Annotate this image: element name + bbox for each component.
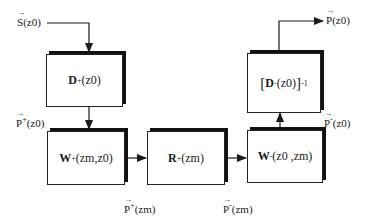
p-plus-zm-symbol: P <box>124 204 130 215</box>
source-symbol: S <box>17 17 23 28</box>
p-plus-zm-arg: (zm) <box>135 203 156 215</box>
w-plus-op: W <box>59 151 71 166</box>
box-w-minus: W-(z0 ,zm) <box>247 130 323 183</box>
r-plus-op: R <box>168 151 177 166</box>
p-minus-z0-symbol: P <box>324 118 330 129</box>
output-arg: (z0) <box>332 14 350 26</box>
edge-dminus-to-output <box>279 21 323 52</box>
w-plus-arg: (zm,z0) <box>76 151 113 166</box>
d-minus-op: D <box>265 76 274 91</box>
p-plus-z0-arg: (z0) <box>27 117 45 129</box>
source-label: S(z0) <box>17 17 41 28</box>
box-d-minus-inverse: [D-(z0)]-1 <box>247 53 321 113</box>
output-symbol: P <box>326 15 332 26</box>
d-plus-arg: (z0) <box>81 73 100 88</box>
signal-p-plus-zm: P+(zm) <box>124 202 155 215</box>
box-r-plus: R+(zm) <box>147 131 225 185</box>
p-minus-zm-arg: (zm) <box>232 203 253 215</box>
output-label: P(z0) <box>326 15 350 26</box>
box-w-plus: W+(zm,z0) <box>47 131 125 185</box>
edge-source-to-dplus <box>47 23 89 52</box>
source-arg: (z0) <box>23 16 41 28</box>
signal-p-plus-z0: P+(z0) <box>16 116 44 129</box>
r-plus-arg: (zm) <box>181 151 204 166</box>
signal-p-minus-z0: P-(z0) <box>324 116 351 129</box>
w-minus-arg: (z0 ,zm) <box>272 149 312 164</box>
box-d-plus: D+(z0) <box>46 54 123 107</box>
d-minus-power: -1 <box>301 79 308 88</box>
p-minus-z0-arg: (z0) <box>333 117 351 129</box>
w-minus-op: W <box>258 149 270 164</box>
p-minus-zm-symbol: P <box>223 204 229 215</box>
d-minus-arg: (z0) <box>277 76 296 91</box>
d-plus-op: D <box>68 73 77 88</box>
signal-p-minus-zm: P-(zm) <box>223 202 253 215</box>
p-plus-z0-symbol: P <box>16 118 22 129</box>
